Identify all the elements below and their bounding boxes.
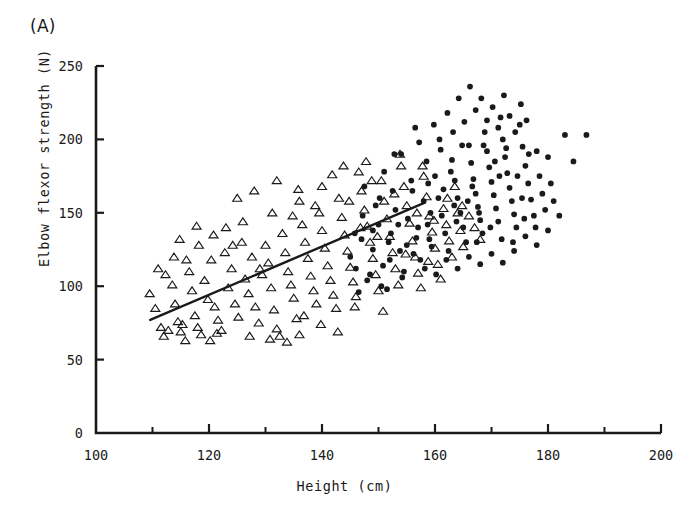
data-point-circle — [443, 257, 449, 263]
x-tick-label: 140 — [310, 447, 334, 463]
data-point-triangle — [373, 233, 382, 240]
data-point-triangle — [323, 262, 332, 269]
data-point-circle — [482, 129, 488, 135]
data-point-circle — [463, 239, 469, 245]
data-point-circle — [408, 178, 414, 184]
data-point-triangle — [206, 337, 215, 344]
data-point-triangle — [197, 331, 206, 338]
data-point-circle — [495, 219, 501, 225]
data-point-circle — [384, 286, 390, 292]
data-point-circle — [511, 211, 517, 217]
data-point-circle — [478, 95, 484, 101]
data-point-circle — [456, 95, 462, 101]
data-point-circle — [401, 269, 407, 275]
series-filled-circle-group — [347, 84, 589, 295]
data-point-triangle — [182, 256, 191, 263]
data-point-triangle — [328, 171, 337, 178]
data-point-triangle — [228, 241, 237, 248]
data-point-circle — [513, 225, 519, 231]
data-point-circle — [438, 147, 444, 153]
data-point-circle — [467, 84, 473, 90]
data-point-triangle — [244, 290, 253, 297]
data-point-circle — [416, 139, 422, 145]
data-point-circle — [468, 160, 474, 166]
data-point-triangle — [464, 212, 473, 219]
data-point-circle — [415, 225, 421, 231]
data-point-triangle — [299, 312, 308, 319]
data-point-triangle — [326, 277, 335, 284]
data-point-triangle — [227, 265, 236, 272]
data-point-triangle — [278, 230, 287, 237]
data-point-circle — [487, 225, 493, 231]
data-point-circle — [445, 110, 451, 116]
data-point-triangle — [428, 228, 437, 235]
data-point-circle — [370, 247, 376, 253]
data-point-circle — [499, 236, 505, 242]
data-point-circle — [424, 159, 430, 165]
data-point-circle — [500, 137, 506, 143]
data-point-circle — [356, 289, 362, 295]
data-point-circle — [459, 142, 465, 148]
data-point-circle — [480, 230, 486, 236]
data-point-circle — [497, 173, 503, 179]
data-point-circle — [507, 113, 513, 119]
data-point-circle — [460, 225, 466, 231]
data-point-triangle — [190, 312, 199, 319]
data-point-triangle — [349, 278, 358, 285]
data-point-triangle — [333, 328, 342, 335]
data-point-triangle — [412, 209, 421, 216]
data-point-circle — [452, 178, 458, 184]
data-point-circle — [584, 132, 590, 138]
data-point-circle — [503, 145, 509, 151]
data-point-circle — [410, 188, 416, 194]
data-point-triangle — [458, 202, 467, 209]
data-point-triangle — [209, 231, 218, 238]
data-point-triangle — [267, 284, 276, 291]
data-point-triangle — [272, 177, 281, 184]
data-point-triangle — [397, 162, 406, 169]
data-point-triangle — [295, 331, 304, 338]
x-tick-label: 200 — [649, 447, 673, 463]
data-point-triangle — [185, 268, 194, 275]
data-point-circle — [495, 125, 501, 131]
x-tick-label: 160 — [423, 447, 447, 463]
data-point-circle — [465, 198, 471, 204]
data-point-triangle — [445, 237, 454, 244]
data-point-circle — [481, 142, 487, 148]
data-point-circle — [545, 154, 551, 160]
data-point-circle — [498, 115, 504, 121]
data-point-circle — [380, 263, 386, 269]
data-point-triangle — [394, 281, 403, 288]
data-point-triangle — [439, 205, 448, 212]
data-point-triangle — [181, 337, 190, 344]
data-point-triangle — [329, 291, 338, 298]
data-point-circle — [545, 228, 551, 234]
data-point-triangle — [350, 303, 359, 310]
data-point-triangle — [207, 256, 216, 263]
data-point-triangle — [251, 303, 260, 310]
data-point-circle — [531, 213, 537, 219]
data-point-triangle — [230, 300, 239, 307]
data-point-circle — [432, 173, 438, 179]
data-point-circle — [433, 272, 439, 278]
data-point-circle — [360, 213, 366, 219]
data-point-triangle — [261, 241, 270, 248]
data-point-triangle — [193, 324, 202, 331]
data-point-triangle — [200, 277, 209, 284]
data-point-circle — [525, 181, 531, 187]
data-point-circle — [512, 129, 518, 135]
data-point-triangle — [316, 321, 325, 328]
data-point-triangle — [175, 236, 184, 243]
data-point-triangle — [145, 290, 154, 297]
y-tick-label: 200 — [59, 131, 83, 147]
data-point-circle — [548, 181, 554, 187]
data-point-triangle — [284, 268, 293, 275]
data-point-triangle — [238, 218, 247, 225]
data-point-circle — [458, 210, 464, 216]
data-point-circle — [502, 154, 508, 160]
figure-panel-a: (A) Elbow flexor strength (N) Height (cm… — [0, 0, 689, 508]
data-point-circle — [387, 257, 393, 263]
data-point-triangle — [429, 216, 438, 223]
data-point-circle — [359, 236, 365, 242]
data-point-triangle — [176, 328, 185, 335]
